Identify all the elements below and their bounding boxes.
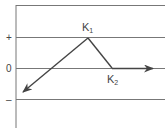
plus-label: + [6, 32, 12, 43]
diagram-canvas: + 0 – K1 K2 [0, 0, 165, 128]
minus-label: – [6, 94, 12, 105]
k1-label: K1 [82, 21, 93, 34]
k2-label: K2 [107, 73, 118, 86]
k1-to-left-arrow [23, 38, 88, 92]
k1-to-k2-segment [88, 38, 112, 68]
zero-label: 0 [6, 63, 12, 74]
